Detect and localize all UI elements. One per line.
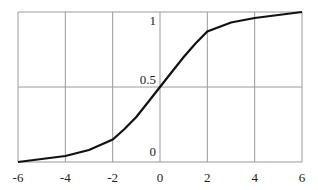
- y-tick-label: 1: [150, 13, 157, 28]
- y-tick-label: 0.5: [140, 72, 156, 87]
- x-tick-label: 4: [251, 170, 258, 185]
- x-tick-label: -4: [60, 170, 71, 185]
- x-tick-label: -6: [13, 170, 24, 185]
- y-tick-label: 0: [150, 144, 157, 159]
- sigmoid-chart: -6-4-20246 00.51: [0, 0, 318, 190]
- x-axis-ticks: -6-4-20246: [13, 170, 306, 185]
- x-tick-label: 0: [157, 170, 164, 185]
- x-tick-label: 6: [299, 170, 306, 185]
- y-axis-ticks: 00.51: [140, 13, 156, 159]
- x-tick-label: -2: [107, 170, 118, 185]
- x-tick-label: 2: [204, 170, 211, 185]
